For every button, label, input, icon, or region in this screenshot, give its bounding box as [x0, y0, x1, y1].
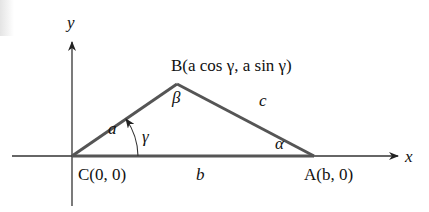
side-a-label: a — [108, 120, 117, 137]
vertex-c-label: C(0, 0) — [78, 166, 126, 183]
gamma-arc — [126, 119, 138, 156]
angle-alpha-label: α — [275, 135, 284, 152]
x-axis-label: x — [405, 148, 413, 165]
side-c — [177, 84, 314, 156]
vertex-b-label: B(a cos γ, a sin γ) — [171, 57, 292, 74]
side-b-label: b — [196, 166, 205, 183]
angle-gamma-label: γ — [142, 128, 149, 145]
side-a — [72, 84, 177, 156]
triangle-diagram: y x B(a cos γ, a sin γ) C(0, 0) A(b, 0) … — [0, 0, 429, 212]
diagram-canvas — [0, 0, 429, 212]
side-c-label: c — [259, 92, 267, 109]
y-axis-label: y — [67, 14, 75, 31]
angle-beta-label: β — [172, 89, 180, 106]
vertex-a-label: A(b, 0) — [304, 166, 353, 183]
